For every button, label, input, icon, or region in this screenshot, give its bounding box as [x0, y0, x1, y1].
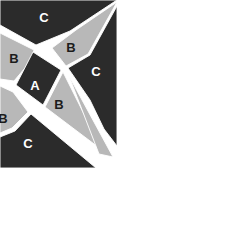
tangram-diagram: CBCBABBC: [0, 0, 227, 252]
figure-root: CBCBABBC: [0, 0, 227, 252]
